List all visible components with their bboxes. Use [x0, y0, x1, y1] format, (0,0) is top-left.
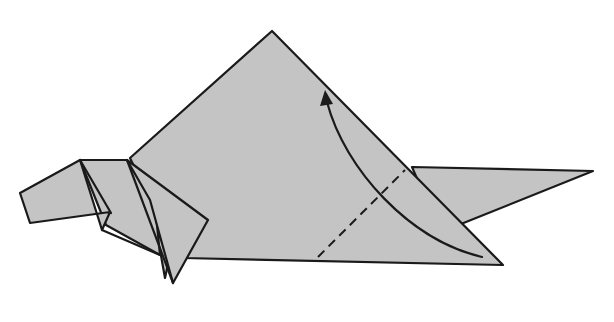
origami-diagram: [0, 0, 614, 322]
